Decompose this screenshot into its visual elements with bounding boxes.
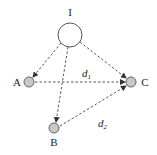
node-a bbox=[24, 77, 34, 87]
node-b-label: B bbox=[50, 136, 57, 148]
node-i-label: I bbox=[68, 6, 72, 18]
node-a-label: A bbox=[13, 76, 21, 88]
edge-b-to-c bbox=[60, 86, 126, 126]
edge-label-d1: d1 bbox=[82, 67, 91, 81]
node-c bbox=[126, 77, 136, 87]
edge-i-to-b bbox=[56, 47, 68, 122]
node-c-label: C bbox=[141, 76, 148, 88]
node-b bbox=[49, 123, 59, 133]
distance-diagram: I A B C d1 d2 bbox=[0, 0, 157, 155]
node-i bbox=[58, 23, 82, 47]
edge-label-d2: d2 bbox=[98, 117, 108, 131]
edge-i-to-a bbox=[33, 43, 61, 77]
